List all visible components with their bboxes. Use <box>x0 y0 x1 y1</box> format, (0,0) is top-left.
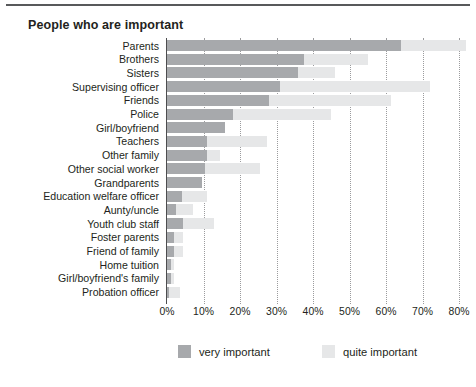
bar-segment-very-important <box>167 122 225 133</box>
bar-segment-very-important <box>167 54 304 65</box>
x-tick-label: 30% <box>266 306 287 317</box>
bar-segment-quite-important <box>174 232 183 243</box>
bar-segment-very-important <box>167 95 269 106</box>
bar-segment-very-important <box>167 67 298 78</box>
bar-segment-quite-important <box>280 81 430 92</box>
bar-row <box>167 273 459 284</box>
bar-segment-quite-important <box>171 273 175 284</box>
x-tick-label: 0% <box>159 306 174 317</box>
bar-row <box>167 122 459 133</box>
x-tick-label: 20% <box>230 306 251 317</box>
category-label: Supervising officer <box>0 81 163 93</box>
bar-row <box>167 246 459 257</box>
legend-item[interactable]: quite important <box>322 345 417 358</box>
category-label: Foster parents <box>0 231 163 243</box>
bar-row <box>167 191 459 202</box>
category-label: Youth club staff <box>0 218 163 230</box>
bar-segment-very-important <box>167 232 174 243</box>
bar-segment-quite-important <box>174 246 183 257</box>
bar-row <box>167 67 459 78</box>
bar-row <box>167 163 459 174</box>
x-tick-label: 70% <box>412 306 433 317</box>
legend-swatch-icon <box>178 345 191 358</box>
bar-segment-very-important <box>167 136 207 147</box>
legend-label: very important <box>199 346 270 358</box>
bar-segment-very-important <box>167 81 280 92</box>
bar-segment-very-important <box>167 177 202 188</box>
bar-row <box>167 232 459 243</box>
x-tick-label: 50% <box>339 306 360 317</box>
plot-area <box>167 38 459 304</box>
category-label: Parents <box>0 40 163 52</box>
bar-row <box>167 136 459 147</box>
bar-row <box>167 150 459 161</box>
category-label: Friend of family <box>0 245 163 257</box>
x-tick-label: 10% <box>193 306 214 317</box>
category-label: Aunty/uncle <box>0 204 163 216</box>
bar-segment-quite-important <box>171 259 175 270</box>
category-label: Other social worker <box>0 163 163 175</box>
category-label: Teachers <box>0 135 163 147</box>
bar-segment-quite-important <box>182 191 208 202</box>
category-label: Education welfare officer <box>0 190 163 202</box>
bar-segment-quite-important <box>401 40 467 51</box>
bar-segment-quite-important <box>298 67 335 78</box>
top-divider-rule <box>6 4 470 6</box>
bar-segment-quite-important <box>233 109 332 120</box>
category-label: Brothers <box>0 53 163 65</box>
category-label: Police <box>0 108 163 120</box>
bar-row <box>167 259 459 270</box>
gridline-80 <box>459 38 461 304</box>
bar-segment-very-important <box>167 191 182 202</box>
bar-segment-quite-important <box>183 218 214 229</box>
bar-row <box>167 54 459 65</box>
bar-row <box>167 204 459 215</box>
bar-segment-very-important <box>167 163 205 174</box>
category-label: Girl/boyfriend <box>0 122 163 134</box>
bar-segment-very-important <box>167 204 176 215</box>
bar-segment-quite-important <box>304 54 368 65</box>
x-tick-label: 60% <box>376 306 397 317</box>
legend-swatch-icon <box>322 345 335 358</box>
x-tick-label: 80% <box>449 306 470 317</box>
legend-item[interactable]: very important <box>178 345 270 358</box>
bar-segment-quite-important <box>169 287 180 298</box>
bar-segment-quite-important <box>176 204 192 215</box>
category-label: Friends <box>0 94 163 106</box>
category-label: Grandparents <box>0 177 163 189</box>
bar-row <box>167 81 459 92</box>
bar-row <box>167 40 459 51</box>
x-tick-label: 40% <box>303 306 324 317</box>
bar-segment-very-important <box>167 218 183 229</box>
category-axis-labels: ParentsBrothersSistersSupervising office… <box>0 38 163 304</box>
bar-row <box>167 109 459 120</box>
bar-segment-very-important <box>167 150 207 161</box>
plot-wrapper: ParentsBrothersSistersSupervising office… <box>0 38 476 304</box>
bar-segment-quite-important <box>269 95 391 106</box>
category-label: Sisters <box>0 67 163 79</box>
chart-figure: People who are important ParentsBrothers… <box>0 0 476 387</box>
bar-segment-quite-important <box>205 163 260 174</box>
legend-label: quite important <box>343 346 417 358</box>
category-label: Home tuition <box>0 259 163 271</box>
bar-segment-quite-important <box>207 136 267 147</box>
chart-legend: very importantquite important <box>0 345 476 367</box>
category-label: Other family <box>0 149 163 161</box>
bar-segment-very-important <box>167 109 233 120</box>
bar-segment-quite-important <box>207 150 220 161</box>
bar-row <box>167 287 459 298</box>
value-axis-tick-labels: 0%10%20%30%40%50%60%70%80% <box>167 306 467 322</box>
bar-segment-very-important <box>167 246 174 257</box>
bar-segment-very-important <box>167 40 401 51</box>
chart-title: People who are important <box>28 18 183 32</box>
bar-row <box>167 177 459 188</box>
bar-row <box>167 218 459 229</box>
category-label: Girl/boyfriend's family <box>0 272 163 284</box>
category-label: Probation officer <box>0 286 163 298</box>
bar-row <box>167 95 459 106</box>
